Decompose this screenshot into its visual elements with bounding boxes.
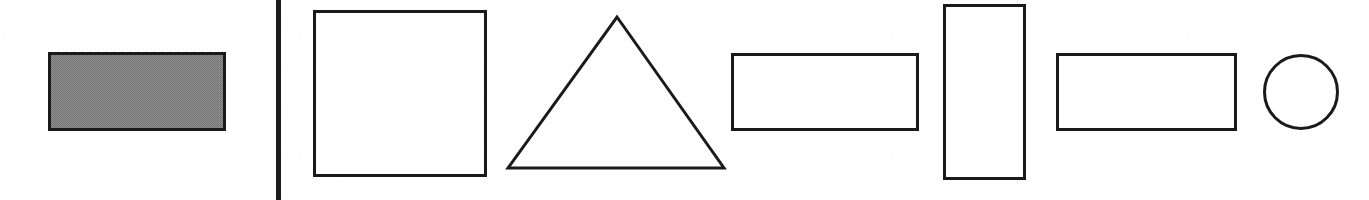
wide-rectangle-right: [1058, 55, 1236, 130]
square-outline: [315, 12, 486, 176]
shaded-rectangle: [50, 54, 225, 130]
tall-rectangle: [945, 6, 1025, 179]
circle-outline: [1265, 56, 1338, 129]
wide-rectangle-left: [733, 55, 918, 130]
shapes-figure: [0, 0, 1369, 200]
figure-canvas: [0, 0, 1369, 200]
vertical-divider: [276, 0, 281, 200]
